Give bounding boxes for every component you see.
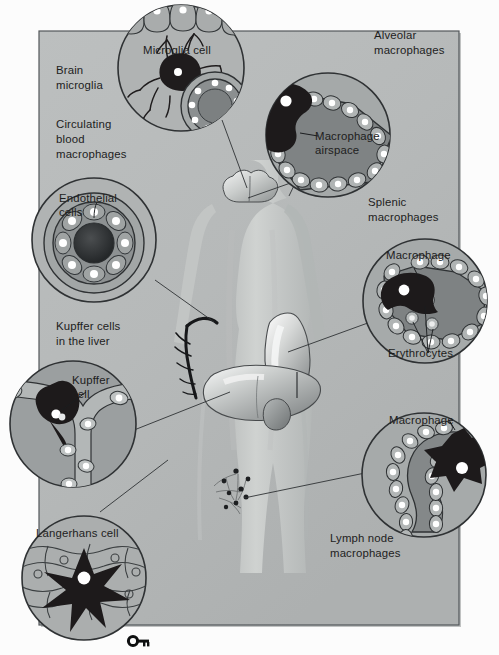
langerhans-nucleus <box>78 572 91 585</box>
organ-gallbladder <box>263 399 290 430</box>
label-lymph-node-line1: Lymph node <box>330 532 394 544</box>
label-endothelial-line1: Endothelial <box>59 192 117 204</box>
callout-langerhans-cell[interactable]: Langerhans cell <box>20 516 146 640</box>
label-endothelial-line2: cells <box>59 206 83 218</box>
label-macrophage-airspace-line2: airspace <box>315 144 359 156</box>
diagram-canvas: Microglia cell <box>0 0 499 655</box>
figure-container: Microglia cell <box>0 0 499 655</box>
label-alveolar-line1: Alveolar <box>374 29 416 41</box>
label-langerhans-cell: Langerhans cell <box>36 527 119 539</box>
label-circulating-line2: blood <box>56 133 85 145</box>
label-brain-microglia-line1: Brain <box>56 64 83 76</box>
label-circulating-line1: Circulating <box>56 118 111 130</box>
splenic-macrophage-nucleus <box>399 285 410 296</box>
label-kupffer-liver-line1: Kupffer cells <box>56 320 121 332</box>
label-erythrocytes: Erythrocytes <box>388 347 453 359</box>
label-kupffer-liver-line2: in the liver <box>56 335 110 347</box>
alveolar-macrophage-nucleus <box>280 95 291 106</box>
label-microglia-cell: Microglia cell <box>143 44 211 56</box>
label-lymph-node-line2: macrophages <box>330 547 401 559</box>
callout-endothelial-cells[interactable]: Endothelial cells <box>32 178 156 302</box>
label-splenic-line1: Splenic <box>368 196 407 208</box>
lymph-macrophage-nucleus <box>456 462 468 474</box>
label-circulating-line3: macrophages <box>56 148 127 160</box>
label-macrophage-airspace-line1: Macrophage <box>315 130 380 142</box>
label-splenic-line2: macrophages <box>368 211 439 223</box>
label-alveolar-line2: macrophages <box>374 44 445 56</box>
microglia-nucleus <box>174 68 182 76</box>
label-kupffer-cell-line1: Kupffer <box>72 374 110 386</box>
label-macrophage-spleen: Macrophage <box>386 249 451 261</box>
label-kupffer-cell-line2: cell <box>72 388 90 400</box>
label-macrophage-lymph: Macrophage <box>389 414 454 426</box>
label-brain-microglia-line2: microglia <box>56 79 103 91</box>
